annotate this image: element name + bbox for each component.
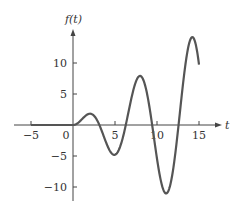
x-axis-arrow-icon <box>215 123 222 128</box>
x-tick-label: −5 <box>23 129 39 142</box>
axes <box>14 29 222 201</box>
y-tick-label: 5 <box>60 88 67 101</box>
chart-svg: −5051015105−5−10 t f(t) <box>0 0 238 215</box>
x-tick-label: 5 <box>112 129 119 142</box>
y-axis-label: f(t) <box>64 13 82 26</box>
y-tick-label: −5 <box>51 150 67 163</box>
chart-figure: −5051015105−5−10 t f(t) <box>0 0 238 215</box>
y-axis-arrow-icon <box>71 29 76 36</box>
y-tick-label: −10 <box>44 181 67 194</box>
x-tick-label: 15 <box>192 129 206 142</box>
x-axis-label: t <box>225 119 230 132</box>
y-tick-label: 10 <box>53 57 67 70</box>
x-tick-label: 0 <box>63 129 70 142</box>
